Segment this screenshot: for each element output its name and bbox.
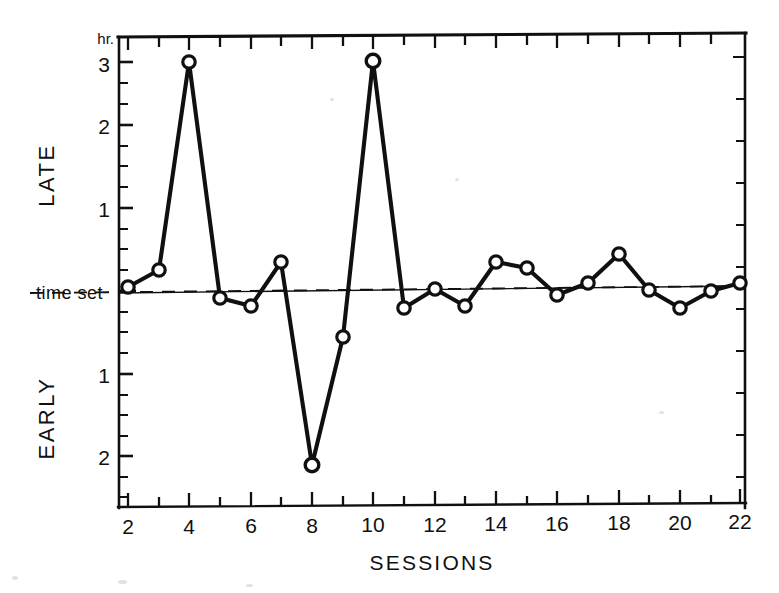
y-tick-label-2: 2: [98, 115, 110, 138]
data-point: [153, 264, 165, 276]
scan-speck: [330, 98, 334, 101]
data-point: [275, 256, 287, 268]
data-point: [245, 300, 257, 312]
scan-speck: [455, 178, 459, 181]
data-point: [521, 262, 533, 274]
data-point: [429, 283, 441, 295]
scan-speck: [12, 576, 18, 580]
plot-frame: [118, 33, 746, 508]
y-axis-label-early: EARLY: [34, 376, 59, 459]
scan-speck: [118, 580, 127, 584]
x-tick-label-8: 8: [306, 514, 318, 537]
data-point: [582, 277, 594, 289]
x-tick-label-20: 20: [668, 511, 691, 534]
line-chart: hr. 3 2 1 1 2 LATE EARLY time set 2 4 6 …: [0, 0, 779, 593]
x-tick-label-14: 14: [484, 512, 508, 535]
data-point: [490, 256, 502, 268]
data-point: [183, 56, 195, 68]
data-point: [734, 277, 746, 289]
y-tick-label-minus-1: 1: [98, 364, 110, 387]
x-tick-label-12: 12: [423, 513, 446, 536]
x-tick-label-18: 18: [607, 511, 630, 534]
y-axis-right-ticks: [733, 57, 745, 477]
figure-page: hr. 3 2 1 1 2 LATE EARLY time set 2 4 6 …: [0, 0, 779, 593]
y-tick-label-1: 1: [98, 198, 110, 221]
x-tick-label-10: 10: [361, 513, 384, 536]
data-point: [705, 285, 717, 297]
axis-bottom: [118, 503, 746, 507]
y-tick-label-3: 3: [98, 53, 110, 76]
data-point: [613, 248, 625, 260]
data-point: [366, 54, 380, 68]
scan-speck: [659, 411, 664, 414]
y-tick-label-minus-2: 2: [98, 446, 110, 469]
data-point: [122, 281, 134, 293]
axis-top: [118, 33, 746, 37]
data-point: [337, 331, 349, 343]
x-tick-label-2: 2: [122, 515, 134, 538]
time-set-label: time set: [36, 283, 103, 303]
y-axis-label-late: LATE: [34, 143, 59, 206]
x-tick-label-4: 4: [183, 515, 195, 538]
time-set-reference-line: [30, 286, 745, 293]
data-point: [305, 458, 319, 472]
x-tick-label-16: 16: [545, 512, 568, 535]
data-point: [551, 289, 563, 301]
data-point: [459, 300, 471, 312]
data-point: [214, 292, 226, 304]
y-unit-label: hr.: [97, 30, 114, 47]
data-point: [674, 302, 686, 314]
data-point: [643, 284, 655, 296]
data-point: [398, 302, 410, 314]
data-line: [128, 61, 740, 465]
scan-speck: [246, 584, 253, 587]
x-axis-title: SESSIONS: [370, 551, 495, 574]
x-tick-label-6: 6: [245, 514, 257, 537]
x-tick-label-22: 22: [728, 510, 751, 533]
